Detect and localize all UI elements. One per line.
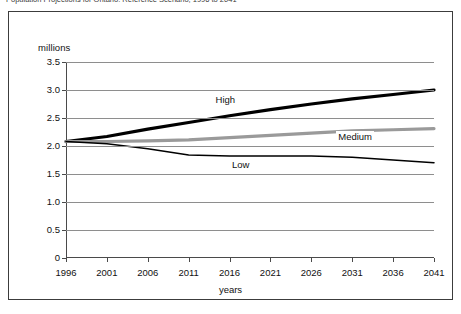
- x-axis-tick-mark: [311, 258, 312, 262]
- y-axis-tick-mark: [62, 62, 66, 63]
- x-axis-tick-mark: [352, 258, 353, 262]
- y-axis-tick-mark: [62, 118, 66, 119]
- x-axis-title: years: [9, 284, 452, 295]
- x-axis-tick-mark: [66, 258, 67, 262]
- x-axis-tick-label: 2036: [373, 267, 413, 278]
- figure-frame: millions years 00.51.01.52.02.53.03.5199…: [8, 11, 453, 300]
- y-axis-tick-label: 2.5: [20, 112, 60, 123]
- x-axis-tick-mark: [393, 258, 394, 262]
- x-axis-tick-label: 2026: [291, 267, 331, 278]
- x-axis-tick-label: 2011: [169, 267, 209, 278]
- x-axis-tick-mark: [189, 258, 190, 262]
- x-axis-tick-mark: [148, 258, 149, 262]
- y-axis-tick-label: 3.5: [20, 56, 60, 67]
- gridline: [66, 118, 434, 119]
- y-axis-tick-label: 0.5: [20, 224, 60, 235]
- x-axis-tick-label: 2031: [332, 267, 372, 278]
- gridline: [66, 174, 434, 175]
- series-line-high: [66, 90, 434, 142]
- series-label-medium: Medium: [336, 131, 374, 142]
- series-label-low: Low: [230, 159, 251, 170]
- y-axis-tick-label: 1.5: [20, 168, 60, 179]
- gridline: [66, 62, 434, 63]
- y-axis-tick-label: 2.0: [20, 140, 60, 151]
- x-axis-tick-label: 2006: [128, 267, 168, 278]
- gridline: [66, 90, 434, 91]
- x-axis-tick-mark: [107, 258, 108, 262]
- x-axis-tick-mark: [230, 258, 231, 262]
- y-axis-tick-mark: [62, 202, 66, 203]
- x-axis-tick-label: 2021: [250, 267, 290, 278]
- y-axis-tick-mark: [62, 230, 66, 231]
- gridline: [66, 230, 434, 231]
- y-axis-tick-mark: [62, 90, 66, 91]
- x-axis-tick-label: 1996: [46, 267, 86, 278]
- x-axis-tick-label: 2001: [87, 267, 127, 278]
- gridline: [66, 202, 434, 203]
- y-axis-tick-mark: [62, 174, 66, 175]
- y-axis-tick-label: 3.0: [20, 84, 60, 95]
- series-label-high: High: [214, 94, 238, 105]
- y-axis-tick-mark: [62, 146, 66, 147]
- x-axis-tick-mark: [434, 258, 435, 262]
- gridline: [66, 146, 434, 147]
- y-axis-tick-label: 0: [20, 252, 60, 263]
- x-axis-tick-mark: [270, 258, 271, 262]
- y-axis-title: millions: [38, 42, 70, 53]
- x-axis-tick-label: 2041: [414, 267, 454, 278]
- figure-caption: Population Projections for Ontario: Refe…: [6, 0, 456, 5]
- y-axis-tick-label: 1.0: [20, 196, 60, 207]
- x-axis-tick-label: 2016: [210, 267, 250, 278]
